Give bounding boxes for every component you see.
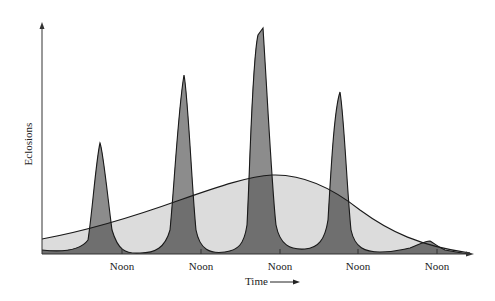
tick-label-noon-2: Noon [189,260,214,272]
tick-label-noon-5: Noon [425,260,450,272]
tick-label-noon-4: Noon [346,260,371,272]
tick-label-noon-3: Noon [268,260,293,272]
time-arrow-icon [293,280,300,285]
y-axis-arrow-icon [40,22,45,29]
x-axis-label: Time [245,275,268,287]
x-axis-arrow-icon [466,252,474,257]
y-axis-label: Eclosions [22,123,34,166]
tick-label-noon-1: Noon [110,260,135,272]
eclosion-chart: Noon Noon Noon Noon Noon Time Eclosions [0,0,495,301]
